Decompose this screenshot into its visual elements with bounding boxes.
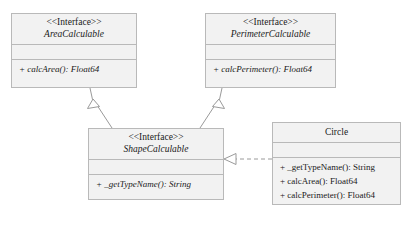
class-header: <<Interface>> ShapeCalculable [89, 129, 223, 160]
stereotype-label: <<Interface>> [210, 17, 331, 28]
class-name: PerimeterCalculable [210, 29, 331, 40]
attributes-compartment [12, 45, 136, 60]
generalization-shape-to-perimeter [200, 88, 225, 128]
uml-class-area-calculable[interactable]: <<Interface>> AreaCalculable + calcArea(… [11, 13, 137, 88]
attributes-compartment [273, 143, 400, 157]
operation-row: + calcArea(): Float64 [273, 174, 400, 188]
stereotype-label: <<Interface>> [93, 132, 219, 143]
attributes-compartment [206, 45, 335, 60]
operations-compartment: + calcPerimeter(): Float64 [206, 60, 335, 87]
operation-row: + calcPerimeter(): Float64 [206, 62, 335, 76]
class-name: ShapeCalculable [93, 144, 219, 155]
generalization-shape-to-area [88, 88, 113, 128]
class-header: <<Interface>> AreaCalculable [12, 14, 136, 45]
operation-row: + _getTypeName(): String [89, 177, 223, 191]
attributes-compartment [89, 160, 223, 175]
operation-row: + calcArea(): Float64 [12, 62, 136, 76]
operation-row: + calcPerimeter(): Float64 [273, 188, 400, 202]
operations-compartment: + calcArea(): Float64 [12, 60, 136, 87]
class-name: AreaCalculable [16, 29, 132, 40]
uml-diagram-canvas: <<Interface>> AreaCalculable + calcArea(… [0, 0, 406, 229]
uml-class-shape-calculable[interactable]: <<Interface>> ShapeCalculable + _getType… [88, 128, 224, 200]
operations-compartment: + _getTypeName(): String [89, 175, 223, 199]
class-header: Circle [273, 123, 400, 143]
stereotype-label: <<Interface>> [16, 17, 132, 28]
uml-class-circle[interactable]: Circle + _getTypeName(): String + calcAr… [272, 122, 401, 205]
operations-compartment: + _getTypeName(): String + calcArea(): F… [273, 158, 400, 204]
class-header: <<Interface>> PerimeterCalculable [206, 14, 335, 45]
uml-class-perimeter-calculable[interactable]: <<Interface>> PerimeterCalculable + calc… [205, 13, 336, 88]
realization-circle-to-shape [224, 154, 272, 165]
operation-row: + _getTypeName(): String [273, 160, 400, 174]
class-name: Circle [277, 127, 396, 138]
